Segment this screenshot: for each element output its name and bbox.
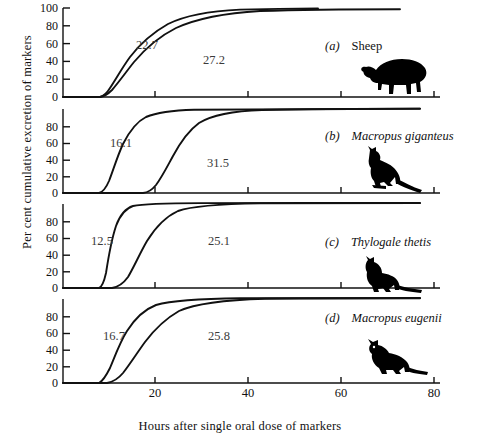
panel-b-curve-label-1: 16.1 [110, 136, 132, 151]
panel-a: 100 80 60 40 20 0 22.7 27.2 (a)Sheep [0, 0, 480, 105]
xtick-60: 60 [321, 387, 361, 400]
panel-c-curve-label-1: 12.5 [91, 234, 113, 249]
panel-b-curve-label-2: 31.5 [207, 156, 229, 171]
kangaroo-silhouette [350, 145, 430, 195]
panel-b-ytick-0: 0 [28, 187, 58, 199]
panel-d-name: Macropus eugenii [352, 311, 442, 325]
x-axis-label: Hours after single oral dose of markers [0, 419, 480, 434]
panel-c-ytick-40: 40 [28, 249, 58, 261]
panel-b-ytick-20: 20 [28, 171, 58, 183]
panel-d-ytick-60: 60 [28, 327, 58, 339]
panel-d-caption: (d)Macropus eugenii [325, 311, 442, 326]
panel-d-ytick-20: 20 [28, 361, 58, 373]
panel-b-caption: (b)Macropus giganteus [325, 129, 454, 144]
panel-c-ytick-20: 20 [28, 266, 58, 278]
panel-a-curve-label-2: 27.2 [203, 53, 225, 68]
panel-c-name: Thylogale thetis [351, 235, 431, 249]
panel-a-caption: (a)Sheep [325, 39, 382, 54]
panel-b-ytick-40: 40 [28, 154, 58, 166]
panel-d-curve-label-1: 16.7 [103, 329, 125, 344]
figure-excretion-curves: Per cent cumulative excretion of markers… [0, 0, 480, 443]
panel-c-ytick-80: 80 [28, 216, 58, 228]
panel-a-letter: (a) [325, 39, 340, 53]
panel-c-caption: (c)Thylogale thetis [325, 235, 431, 250]
panel-d-curve-label-2: 25.8 [208, 329, 230, 344]
panel-d-letter: (d) [325, 311, 340, 325]
panel-a-ytick-0: 0 [28, 91, 58, 103]
panel-b: 80 60 40 20 0 16.1 31.5 (b)Macropus giga… [0, 105, 480, 200]
panel-b-ytick-60: 60 [28, 137, 58, 149]
panel-d-ytick-80: 80 [28, 311, 58, 323]
panel-c-ytick-60: 60 [28, 232, 58, 244]
sheep-silhouette [358, 54, 430, 98]
panel-c-ytick-0: 0 [28, 282, 58, 294]
panel-a-ytick-80: 80 [28, 20, 58, 32]
pademelon-silhouette [352, 254, 428, 294]
panel-b-ytick-80: 80 [28, 121, 58, 133]
panel-d: 80 60 40 20 0 16.7 25.8 (d)Macropus euge… [0, 295, 480, 419]
panel-a-ytick-40: 40 [28, 55, 58, 67]
panel-b-name: Macropus giganteus [352, 129, 454, 143]
panel-a-ytick-60: 60 [28, 38, 58, 50]
panel-c-letter: (c) [325, 235, 339, 249]
panel-a-ytick-20: 20 [28, 73, 58, 85]
xtick-40: 40 [228, 387, 268, 400]
tammar-wallaby-silhouette [355, 335, 431, 377]
panel-a-name: Sheep [352, 39, 383, 53]
panel-a-curve-label-1: 22.7 [136, 38, 158, 53]
panel-d-ytick-40: 40 [28, 344, 58, 356]
panel-c-curve-label-2: 25.1 [208, 234, 230, 249]
panel-d-ytick-0: 0 [28, 377, 58, 389]
panel-b-letter: (b) [325, 129, 340, 143]
xtick-20: 20 [135, 387, 175, 400]
panel-c: 80 60 40 20 0 12.5 25.1 (c)Thylogale the… [0, 200, 480, 295]
xtick-80: 80 [414, 387, 454, 400]
panel-a-ytick-100: 100 [28, 2, 58, 14]
